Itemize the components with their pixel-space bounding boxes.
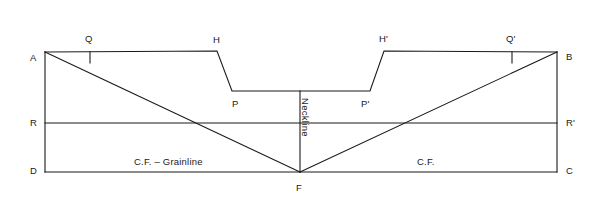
- point-label-c: C: [566, 166, 573, 176]
- point-label-p: P: [232, 99, 239, 109]
- diagonal-b-f-line: [300, 52, 557, 172]
- point-label-f: F: [296, 183, 302, 193]
- point-label-h-prime: H': [379, 34, 388, 44]
- point-label-h: H: [213, 35, 220, 45]
- point-label-q: Q: [85, 34, 93, 44]
- point-label-q-prime: Q': [506, 34, 516, 44]
- point-label-b: B: [566, 52, 573, 62]
- point-label-r-prime: R': [566, 118, 575, 128]
- grainline-annotation: C.F. – Grainline: [134, 157, 203, 167]
- point-label-d: D: [30, 166, 37, 176]
- top-contour-line: [45, 51, 557, 91]
- neckline-annotation: Neckline: [301, 98, 311, 137]
- center-front-annotation: C.F.: [417, 157, 435, 167]
- point-label-p-prime: P': [361, 99, 370, 109]
- pattern-diagram: A B C D F H H' P P' Q Q' R R' C.F. – Gra…: [0, 0, 602, 205]
- point-label-a: A: [30, 53, 37, 63]
- diagonal-a-f-line: [45, 52, 300, 172]
- point-label-r: R: [30, 118, 37, 128]
